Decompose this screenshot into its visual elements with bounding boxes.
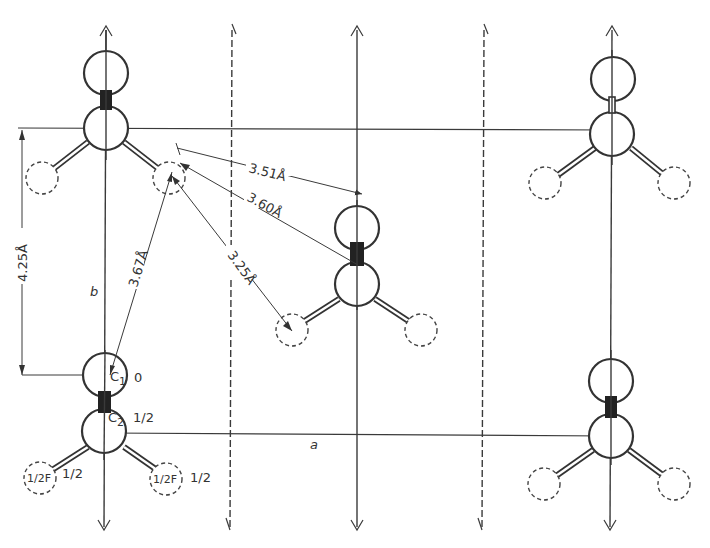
label-c2-height: 1/2 <box>133 410 154 425</box>
label-f-left-height: 1/2 <box>62 466 83 481</box>
atom-f <box>658 167 690 199</box>
atom-f <box>529 167 561 199</box>
label-f-right-height: 1/2 <box>190 470 211 485</box>
cell-bottom-edge <box>106 433 610 436</box>
atom-f <box>528 468 560 500</box>
axis-dashed-right <box>478 24 488 530</box>
label-f-left: 1/2F <box>27 472 51 485</box>
label-f-right: 1/2F <box>153 473 177 486</box>
distance-label-4-25: 4.25Å <box>15 244 30 282</box>
atom-f <box>276 314 308 346</box>
atom-f <box>26 162 58 194</box>
molecule-top-right <box>529 50 690 199</box>
label-c1-height: 0 <box>134 370 142 385</box>
crystal-structure-diagram: 4.25Å b a 3.51Å 3.60Å 3.25Å 3.67Å C1 0 C… <box>0 0 710 548</box>
distance-lines: 3.51Å 3.60Å 3.25Å 3.67Å <box>110 143 362 375</box>
molecule-bottom-right <box>528 350 690 500</box>
axis-label-b: b <box>90 284 98 299</box>
atom-f <box>658 468 690 500</box>
atom-c-top <box>591 57 635 101</box>
axis-label-a: a <box>310 437 318 452</box>
atom-f <box>405 314 437 346</box>
